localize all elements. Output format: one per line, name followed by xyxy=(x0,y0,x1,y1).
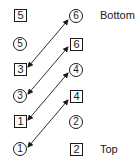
node-box-5: 5 xyxy=(14,9,27,22)
arrow-box1-circle4 xyxy=(28,73,68,120)
node-box-3: 3 xyxy=(14,63,27,76)
arrow-circle1-box4 xyxy=(28,100,68,147)
arrow-box3-circle6 xyxy=(28,20,68,67)
node-box-2: 2 xyxy=(70,143,83,156)
node-circle-3: 3 xyxy=(13,89,27,103)
node-box-4: 4 xyxy=(70,90,83,103)
node-circle-2: 2 xyxy=(69,115,83,129)
node-circle-6: 6 xyxy=(69,9,83,23)
node-circle-1: 1 xyxy=(13,142,27,156)
node-circle-4: 4 xyxy=(69,63,83,77)
label-bottom: Bottom xyxy=(100,9,135,21)
node-box-1: 1 xyxy=(14,115,27,128)
node-circle-5: 5 xyxy=(13,37,27,51)
label-top: Top xyxy=(100,143,118,155)
arrow-circle3-box6 xyxy=(28,47,68,94)
node-box-6: 6 xyxy=(70,38,83,51)
